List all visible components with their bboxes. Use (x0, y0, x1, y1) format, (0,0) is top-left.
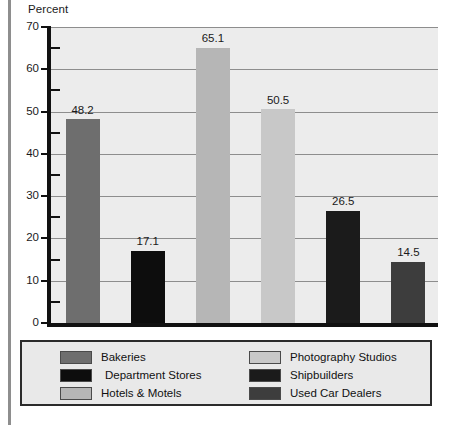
y-axis-tick-minor (50, 259, 60, 261)
y-axis-tick-label: 0 (33, 317, 39, 329)
bar: 14.5 (391, 262, 425, 323)
legend-label: Used Car Dealers (290, 388, 381, 400)
y-axis-tick-label: 60 (26, 64, 39, 76)
bar: 65.1 (196, 48, 230, 323)
bar: 50.5 (261, 109, 295, 323)
bar-value-label: 17.1 (137, 236, 159, 248)
legend-label: Shipbuilders (290, 370, 353, 382)
y-axis-tick-minor (50, 132, 60, 134)
legend-label: Photography Studios (290, 352, 397, 364)
legend-column-right: Photography StudiosShipbuildersUsed Car … (249, 349, 397, 403)
legend-item: Used Car Dealers (249, 385, 397, 402)
gridline (50, 112, 438, 113)
gridline (50, 27, 438, 28)
legend-item: Department Stores (60, 367, 202, 384)
bar-chart: 010203040506070 48.217.165.150.526.514.5 (47, 27, 438, 325)
legend-label: Department Stores (105, 370, 202, 382)
legend-column-left: BakeriesDepartment StoresHotels & Motels (60, 349, 202, 403)
legend-item: Shipbuilders (249, 367, 397, 384)
y-axis-tick-label: 30 (26, 190, 39, 202)
y-axis-tick-minor (50, 89, 60, 91)
y-axis-tick-minor (50, 216, 60, 218)
legend-swatch (60, 387, 92, 400)
bar-value-label: 65.1 (202, 33, 224, 45)
y-axis-line (47, 26, 51, 326)
gridline (50, 196, 438, 197)
x-axis-line (47, 323, 438, 327)
bar: 48.2 (66, 119, 100, 323)
bar-value-label: 50.5 (267, 95, 289, 107)
legend-item: Photography Studios (249, 349, 397, 366)
legend-swatch (249, 369, 281, 382)
bar: 26.5 (326, 211, 360, 323)
legend-item: Hotels & Motels (60, 385, 202, 402)
bar-value-label: 14.5 (397, 247, 419, 259)
y-axis-tick-label: 20 (26, 233, 39, 245)
y-axis-tick-label: 50 (26, 106, 39, 118)
legend-label: Bakeries (101, 352, 146, 364)
y-axis-caption: Percent (28, 3, 68, 15)
y-axis-tick-label: 40 (26, 148, 39, 160)
bar: 17.1 (131, 251, 165, 323)
legend-item: Bakeries (60, 349, 202, 366)
legend-swatch (249, 387, 281, 400)
bar-value-label: 48.2 (71, 105, 93, 117)
legend-swatch (60, 351, 92, 364)
gridline (50, 238, 438, 239)
y-axis-tick-minor (50, 174, 60, 176)
legend-label: Hotels & Motels (101, 388, 182, 400)
y-axis-tick-label: 10 (26, 275, 39, 287)
legend-swatch (60, 369, 92, 382)
page-left-rule (8, 0, 11, 425)
y-axis-tick-label: 70 (26, 21, 39, 33)
gridline (50, 154, 438, 155)
y-axis-tick-minor (50, 47, 60, 49)
y-axis-tick-minor (50, 301, 60, 303)
chart-legend: BakeriesDepartment StoresHotels & Motels… (20, 340, 432, 406)
gridline (50, 69, 438, 70)
legend-swatch (249, 351, 281, 364)
bar-value-label: 26.5 (332, 196, 354, 208)
gridline (50, 281, 438, 282)
